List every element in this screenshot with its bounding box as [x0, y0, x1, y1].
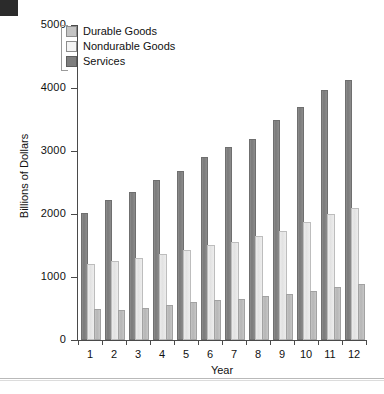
bar-durable-goods-year-3: [142, 308, 150, 340]
bar-durable-goods-year-4: [166, 305, 174, 340]
x-axis-tick: [318, 340, 319, 345]
x-axis-tick-label: 10: [294, 348, 318, 360]
bar-durable-goods-year-7: [238, 299, 246, 340]
y-axis-tick: [71, 151, 77, 152]
x-axis-tick: [150, 340, 151, 345]
x-axis-tick: [270, 340, 271, 345]
y-axis-tick: [71, 340, 77, 341]
x-axis-tick: [222, 340, 223, 345]
x-axis-tick: [294, 340, 295, 345]
bar-durable-goods-year-2: [118, 310, 126, 340]
legend-item-nondurable-goods: Nondurable Goods: [66, 39, 216, 53]
bar-chart-figure: 010002000300040005000 123456789101112 Ye…: [0, 0, 384, 394]
legend-label-nondurable-goods: Nondurable Goods: [83, 40, 175, 52]
x-axis-tick-label: 4: [150, 348, 174, 360]
x-axis-tick-label: 9: [270, 348, 294, 360]
y-axis-title: Billions of Dollars: [18, 106, 30, 246]
x-axis-tick: [198, 340, 199, 345]
x-axis-tick: [366, 340, 367, 345]
legend-bracket: [61, 25, 68, 71]
x-axis-tick: [246, 340, 247, 345]
bar-durable-goods-year-9: [286, 294, 294, 340]
bar-durable-goods-year-8: [262, 296, 270, 340]
bar-durable-goods-year-5: [190, 302, 198, 340]
chart-legend: Durable Goods Nondurable Goods Services: [66, 24, 216, 69]
x-axis-tick-label: 5: [174, 348, 198, 360]
y-axis-tick: [71, 88, 77, 89]
y-axis-tick-label: 4000: [41, 82, 66, 93]
bar-durable-goods-year-10: [310, 291, 318, 340]
x-axis-tick-label: 11: [318, 348, 342, 360]
y-axis-tick-label: 1000: [41, 271, 66, 282]
x-axis-tick-label: 2: [102, 348, 126, 360]
y-axis-tick: [71, 277, 77, 278]
bar-durable-goods-year-1: [94, 309, 102, 340]
legend-label-services: Services: [83, 55, 125, 67]
x-axis-tick: [174, 340, 175, 345]
x-axis-tick: [126, 340, 127, 345]
x-axis-tick-label: 1: [78, 348, 102, 360]
x-axis-tick-label: 12: [342, 348, 366, 360]
x-axis-tick-label: 7: [222, 348, 246, 360]
x-axis-tick-label: 3: [126, 348, 150, 360]
x-axis-title: Year: [78, 364, 366, 376]
x-axis-tick: [342, 340, 343, 345]
bar-durable-goods-year-11: [334, 287, 342, 340]
y-axis-tick-label: 3000: [41, 145, 66, 156]
plot-area: [78, 25, 366, 340]
bar-durable-goods-year-6: [214, 300, 222, 340]
y-axis-tick-label: 2000: [41, 208, 66, 219]
bar-durable-goods-year-12: [358, 284, 366, 340]
page-divider-rule-secondary: [0, 380, 384, 381]
y-axis-tick: [71, 214, 77, 215]
legend-item-durable-goods: Durable Goods: [66, 24, 216, 38]
legend-item-services: Services: [66, 54, 216, 68]
x-axis-tick-label: 6: [198, 348, 222, 360]
x-axis-tick-label: 8: [246, 348, 270, 360]
y-axis-tick-label: 0: [60, 334, 66, 345]
page-divider-rule: [0, 378, 384, 379]
x-axis-tick: [78, 340, 79, 345]
legend-label-durable-goods: Durable Goods: [83, 25, 157, 37]
x-axis-tick: [102, 340, 103, 345]
